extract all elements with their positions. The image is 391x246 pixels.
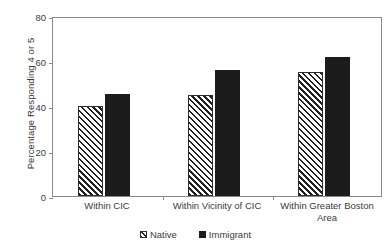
- chart-legend: NativeImmigrant: [0, 229, 391, 240]
- legend-swatch-immigrant-icon: [199, 231, 206, 238]
- y-axis-tick-label: 20: [35, 147, 46, 158]
- bar-immigrant: [215, 70, 240, 196]
- y-axis-tick-mark: [49, 198, 53, 199]
- x-axis-category-labels: Within CICWithin Vicinity of CICWithin G…: [52, 200, 382, 228]
- legend-item: Immigrant: [199, 229, 251, 240]
- bar-immigrant: [105, 94, 130, 196]
- x-axis-category-label: Within Vicinity of CIC: [162, 200, 272, 212]
- plot-area: 020406080: [52, 17, 382, 197]
- y-axis-tick-label: 0: [41, 192, 46, 203]
- y-axis-title: Percentage Responding 4 or 5: [25, 4, 36, 204]
- legend-item-label: Immigrant: [209, 229, 251, 240]
- bar-native: [78, 106, 103, 196]
- bar-immigrant: [325, 57, 350, 197]
- x-axis-category-label: Within Greater Boston Area: [272, 200, 382, 223]
- bar-group-container: [53, 18, 381, 196]
- legend-item: Native: [140, 229, 177, 240]
- bar-chart-figure: Percentage Responding 4 or 5 020406080 W…: [0, 0, 391, 246]
- y-axis-tick-label: 60: [35, 57, 46, 68]
- y-axis-tick-label: 40: [35, 102, 46, 113]
- bar-native: [298, 72, 323, 196]
- legend-item-label: Native: [150, 229, 177, 240]
- legend-swatch-native-icon: [140, 231, 147, 238]
- y-axis-tick-label: 80: [35, 12, 46, 23]
- x-axis-category-label: Within CIC: [52, 200, 162, 212]
- bar-native: [188, 95, 213, 196]
